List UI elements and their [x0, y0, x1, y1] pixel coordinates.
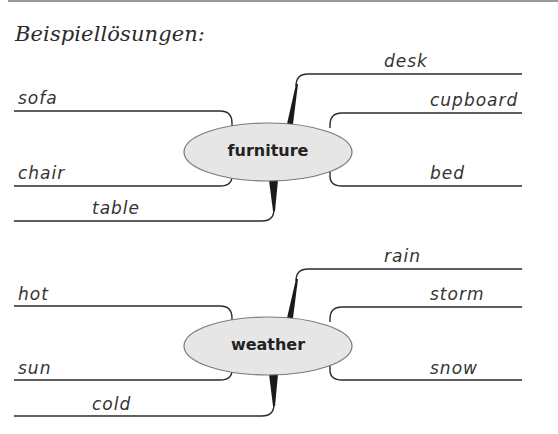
word-table: table [92, 198, 140, 218]
furniture-desk-stem [287, 84, 298, 124]
word-sofa: sofa [18, 88, 58, 108]
word-cupboard: cupboard [430, 90, 518, 110]
word-rain: rain [384, 246, 421, 266]
weather-cold-stem [269, 374, 278, 406]
word-bed: bed [430, 163, 465, 183]
furniture-table-stem [269, 180, 278, 211]
word-desk: desk [384, 51, 428, 71]
word-hot: hot [18, 284, 49, 304]
word-cold: cold [92, 394, 131, 414]
center-label-weather: weather [184, 335, 352, 354]
center-label-furniture: furniture [184, 141, 352, 160]
word-storm: storm [430, 284, 484, 304]
weather-rain-stem [287, 279, 298, 318]
word-chair: chair [18, 163, 65, 183]
word-sun: sun [18, 358, 51, 378]
word-snow: snow [430, 358, 478, 378]
